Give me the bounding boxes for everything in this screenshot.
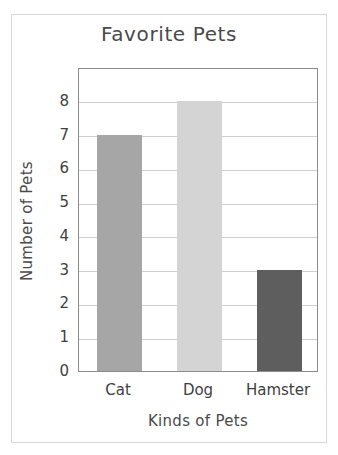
y-axis-title: Number of Pets	[18, 131, 36, 311]
y-tick-label-8: 8	[47, 94, 69, 109]
y-tick-label-3: 3	[47, 263, 69, 278]
y-tick-label-2: 2	[47, 296, 69, 311]
x-axis-title: Kinds of Pets	[78, 412, 318, 430]
y-tick-label-1: 1	[47, 330, 69, 345]
page-title: Favorite Pets	[11, 22, 327, 46]
bar-dog	[177, 101, 222, 371]
y-tick-label-6: 6	[47, 161, 69, 176]
y-tick-label-5: 5	[47, 195, 69, 210]
y-tick-label-0: 0	[47, 364, 69, 379]
bar-cat	[97, 135, 142, 371]
y-tick-label-7: 7	[47, 128, 69, 143]
y-tick-label-4: 4	[47, 229, 69, 244]
bar-hamster	[257, 270, 302, 371]
plot-area	[78, 68, 318, 372]
x-tick-label-hamster: Hamster	[228, 381, 328, 399]
chart-page: Favorite Pets Number of Pets 012345678 C…	[0, 0, 338, 455]
